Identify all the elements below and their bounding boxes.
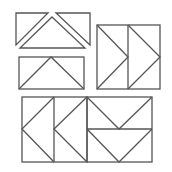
right-arrow-2	[128, 25, 160, 89]
right-arrows-square	[97, 25, 160, 89]
right-corner-triangle	[56, 13, 90, 45]
left-arrows-square	[22, 97, 87, 162]
wide-rectangle	[19, 57, 84, 89]
right-arrow-1	[97, 25, 128, 89]
left-arrow-2	[54, 97, 87, 162]
top-triangles	[16, 13, 90, 48]
down-arrow-2	[87, 129, 152, 162]
tangram-diagram	[0, 0, 172, 172]
left-corner-triangle	[16, 13, 48, 45]
left-arrow-1	[22, 97, 54, 162]
down-arrow-1	[87, 97, 152, 129]
inscribed-triangle	[19, 57, 84, 89]
center-large-triangle	[20, 17, 85, 48]
down-arrows-square	[87, 97, 152, 162]
wide-rectangle-with-triangle	[19, 57, 84, 89]
